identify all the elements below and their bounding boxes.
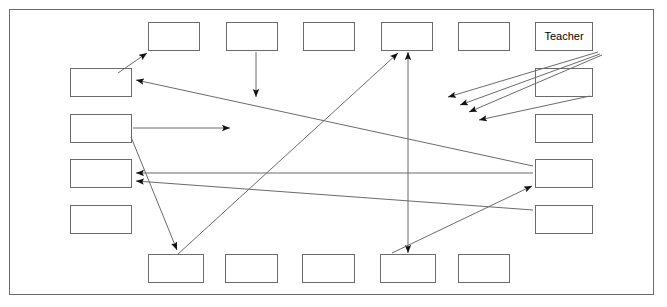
classroom-boundary xyxy=(9,9,654,295)
desk-bottom-4[interactable] xyxy=(380,254,436,283)
desk-right-4[interactable] xyxy=(535,205,593,234)
desk-left-1[interactable] xyxy=(70,68,132,97)
desk-left-3[interactable] xyxy=(70,159,132,188)
desk-bottom-2[interactable] xyxy=(225,254,278,283)
diagram-canvas: Teacher xyxy=(0,0,667,307)
desk-top-1[interactable] xyxy=(148,22,200,51)
desk-right-1[interactable] xyxy=(535,68,593,97)
desk-teacher[interactable]: Teacher xyxy=(535,22,593,51)
desk-top-3[interactable] xyxy=(303,22,355,51)
desk-bottom-3[interactable] xyxy=(302,254,355,283)
desk-right-2[interactable] xyxy=(535,114,593,143)
desk-right-3[interactable] xyxy=(535,159,593,188)
desk-label: Teacher xyxy=(544,31,583,42)
desk-top-4[interactable] xyxy=(381,22,433,51)
desk-left-2[interactable] xyxy=(70,114,132,143)
desk-left-4[interactable] xyxy=(70,205,132,234)
desk-top-2[interactable] xyxy=(226,22,278,51)
desk-top-5[interactable] xyxy=(458,22,510,51)
desk-bottom-1[interactable] xyxy=(148,254,204,283)
desk-bottom-5[interactable] xyxy=(458,254,510,283)
